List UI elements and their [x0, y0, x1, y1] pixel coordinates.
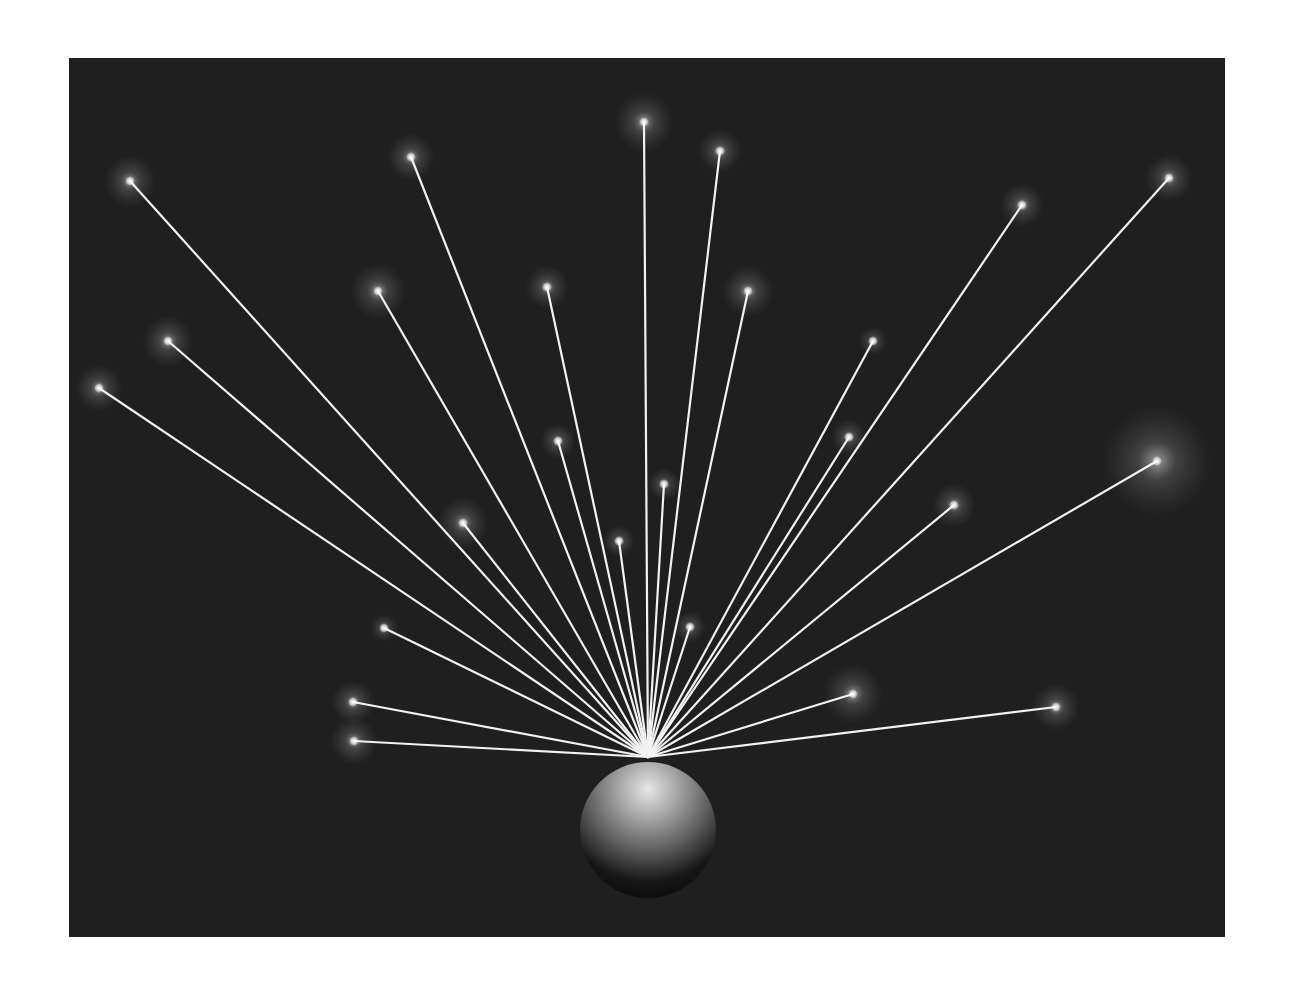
light-ray [547, 287, 648, 757]
star-point [163, 336, 173, 346]
light-ray [648, 694, 853, 757]
star-point [659, 479, 669, 489]
light-ray [648, 461, 1157, 757]
star-point [553, 436, 563, 446]
star-point [1051, 702, 1061, 712]
star-point [743, 286, 753, 296]
star-point [685, 622, 695, 632]
star-point [868, 336, 878, 346]
star-point [614, 536, 624, 546]
light-rays-scene [0, 0, 1296, 990]
star-point [1152, 456, 1162, 466]
star-point [373, 286, 383, 296]
star-point [715, 146, 725, 156]
star-point [1017, 200, 1027, 210]
light-ray [644, 122, 648, 757]
star-point [348, 697, 358, 707]
star-point [94, 383, 104, 393]
star-point [844, 432, 854, 442]
star-point [542, 282, 552, 292]
star-point [1164, 173, 1174, 183]
star-point [379, 623, 389, 633]
light-ray [558, 441, 648, 757]
light-ray [378, 291, 648, 757]
light-ray [168, 341, 648, 757]
star-point [639, 117, 649, 127]
star-point [848, 689, 858, 699]
sphere [580, 762, 716, 898]
star-point [349, 736, 359, 746]
star-point [125, 176, 135, 186]
light-ray [384, 628, 648, 757]
star-point [458, 518, 468, 528]
light-ray [411, 157, 648, 757]
star-point [949, 500, 959, 510]
light-ray [648, 178, 1169, 757]
star-point [406, 152, 416, 162]
